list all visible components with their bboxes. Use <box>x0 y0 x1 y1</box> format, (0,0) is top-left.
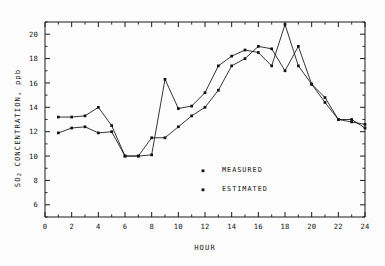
data-point-marker <box>164 78 167 81</box>
y-tick-label: 20 <box>29 30 38 39</box>
legend-marker <box>202 169 205 172</box>
data-point-marker <box>137 155 140 158</box>
series-line <box>58 24 365 156</box>
data-point-marker <box>190 114 193 117</box>
legend-item-estimated: ESTIMATED <box>202 185 268 193</box>
y-tick-label: 6 <box>33 200 38 209</box>
data-point-marker <box>297 45 300 48</box>
y-axis-tick-labels: 68101214161820 <box>29 30 38 210</box>
data-point-marker <box>230 55 233 58</box>
x-tick-label: 4 <box>96 222 101 231</box>
data-point-marker <box>270 47 273 50</box>
y-axis-ticks <box>45 22 365 217</box>
data-point-marker <box>230 65 233 68</box>
so2-concentration-chart: 024681012141618202224 68101214161820 MEA… <box>0 0 385 266</box>
x-tick-label: 12 <box>200 222 209 231</box>
legend-label: MEASURED <box>222 166 263 174</box>
x-tick-label: 14 <box>227 222 236 231</box>
y-tick-label: 12 <box>29 127 38 136</box>
x-tick-label: 0 <box>43 222 48 231</box>
x-tick-label: 6 <box>123 222 128 231</box>
chart-axes <box>45 22 365 217</box>
x-tick-label: 10 <box>174 222 183 231</box>
y-tick-label: 16 <box>29 79 38 88</box>
data-point-marker <box>70 127 73 130</box>
chart-canvas: 024681012141618202224 68101214161820 MEA… <box>0 0 385 266</box>
data-point-marker <box>150 153 153 156</box>
data-point-marker <box>257 51 260 54</box>
data-point-marker <box>70 116 73 119</box>
chart-legend: MEASUREDESTIMATED <box>202 166 268 193</box>
y-axis-title: SO2 CONCENTRATION, ppb <box>13 69 22 187</box>
data-point-marker <box>284 69 287 72</box>
x-tick-label: 18 <box>280 222 289 231</box>
x-tick-label: 20 <box>307 222 316 231</box>
data-point-marker <box>177 107 180 110</box>
data-point-marker <box>284 23 287 26</box>
data-point-marker <box>297 65 300 68</box>
y-axis-title-label: SO2 CONCENTRATION, ppb <box>13 69 22 187</box>
y-axis-title-text: SO2 CONCENTRATION, ppb <box>13 69 22 187</box>
y-tick-label: 18 <box>29 54 38 63</box>
data-series-group <box>57 23 366 157</box>
legend-item-measured: MEASURED <box>202 166 263 174</box>
data-point-marker <box>310 83 313 86</box>
x-axis-tick-labels: 024681012141618202224 <box>43 222 370 231</box>
legend-marker <box>202 188 205 191</box>
x-axis-ticks <box>45 22 365 217</box>
data-point-marker <box>110 124 113 127</box>
data-point-marker <box>110 130 113 133</box>
data-point-marker <box>364 127 367 130</box>
data-point-marker <box>324 96 327 99</box>
series-measured <box>57 23 366 157</box>
data-point-marker <box>97 132 100 135</box>
data-point-marker <box>244 49 247 52</box>
data-point-marker <box>97 106 100 109</box>
data-point-marker <box>217 65 220 68</box>
data-point-marker <box>350 118 353 121</box>
data-point-marker <box>57 116 60 119</box>
x-tick-label: 16 <box>254 222 263 231</box>
data-point-marker <box>244 57 247 60</box>
data-point-marker <box>350 121 353 124</box>
data-point-marker <box>84 125 87 128</box>
data-point-marker <box>204 91 207 94</box>
x-tick-label: 22 <box>334 222 343 231</box>
y-tick-label: 14 <box>29 103 38 112</box>
data-point-marker <box>84 114 87 117</box>
y-tick-label: 10 <box>29 152 38 161</box>
data-point-marker <box>364 123 367 126</box>
data-point-marker <box>204 106 207 109</box>
data-point-marker <box>150 136 153 139</box>
y-tick-label: 8 <box>33 176 38 185</box>
data-point-marker <box>257 45 260 48</box>
legend-label: ESTIMATED <box>222 185 268 193</box>
data-point-marker <box>190 105 193 108</box>
data-point-marker <box>324 101 327 104</box>
data-point-marker <box>217 89 220 92</box>
x-tick-label: 2 <box>69 222 74 231</box>
data-point-marker <box>177 125 180 128</box>
data-point-marker <box>124 155 127 158</box>
x-tick-label: 8 <box>149 222 154 231</box>
data-point-marker <box>270 65 273 68</box>
x-axis-title: HOUR <box>194 243 216 252</box>
x-tick-label: 24 <box>360 222 369 231</box>
data-point-marker <box>164 136 167 139</box>
series-estimated <box>57 45 366 157</box>
data-point-marker <box>337 118 340 121</box>
data-point-marker <box>57 132 60 135</box>
series-line <box>58 46 365 156</box>
